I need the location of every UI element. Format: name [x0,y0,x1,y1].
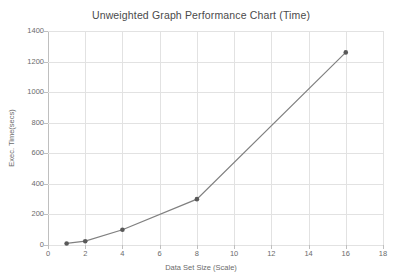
chart-title: Unweighted Graph Performance Chart (Time… [0,9,402,21]
x-tick-label: 12 [259,250,283,258]
x-tick-label: 14 [297,250,321,258]
y-tick-label: 400 [31,180,44,188]
data-point [120,227,125,232]
y-tick-label: 200 [31,210,44,218]
data-point [343,50,348,55]
x-tick-label: 4 [110,250,134,258]
gridline-vertical [383,31,384,245]
x-axis-label: Data Set Size (Scale) [0,263,402,272]
series-polyline [67,52,346,243]
y-axis-tick-labels: 0200400600800100012001400 [10,31,44,246]
x-tick-label: 2 [73,250,97,258]
x-axis-tick-labels: 024681012141618 [48,250,384,262]
data-point [83,239,88,244]
x-tick-label: 8 [185,250,209,258]
chart-canvas: Unweighted Graph Performance Chart (Time… [0,0,402,280]
series-markers [64,50,348,246]
x-tick-label: 18 [371,250,395,258]
x-tick-label: 10 [222,250,246,258]
plot-area [48,31,383,245]
y-tick-label: 800 [31,119,44,127]
data-point [64,241,69,246]
x-tick-label: 6 [148,250,172,258]
data-point [195,197,200,202]
y-tick-label: 1200 [27,58,44,66]
data-series-line [48,31,383,245]
y-tick-label: 1000 [27,88,44,96]
gridline-horizontal [48,245,383,246]
y-tick-label: 600 [31,149,44,157]
x-tick-label: 0 [36,250,60,258]
y-tick-label: 1400 [27,27,44,35]
x-tick-label: 16 [334,250,358,258]
